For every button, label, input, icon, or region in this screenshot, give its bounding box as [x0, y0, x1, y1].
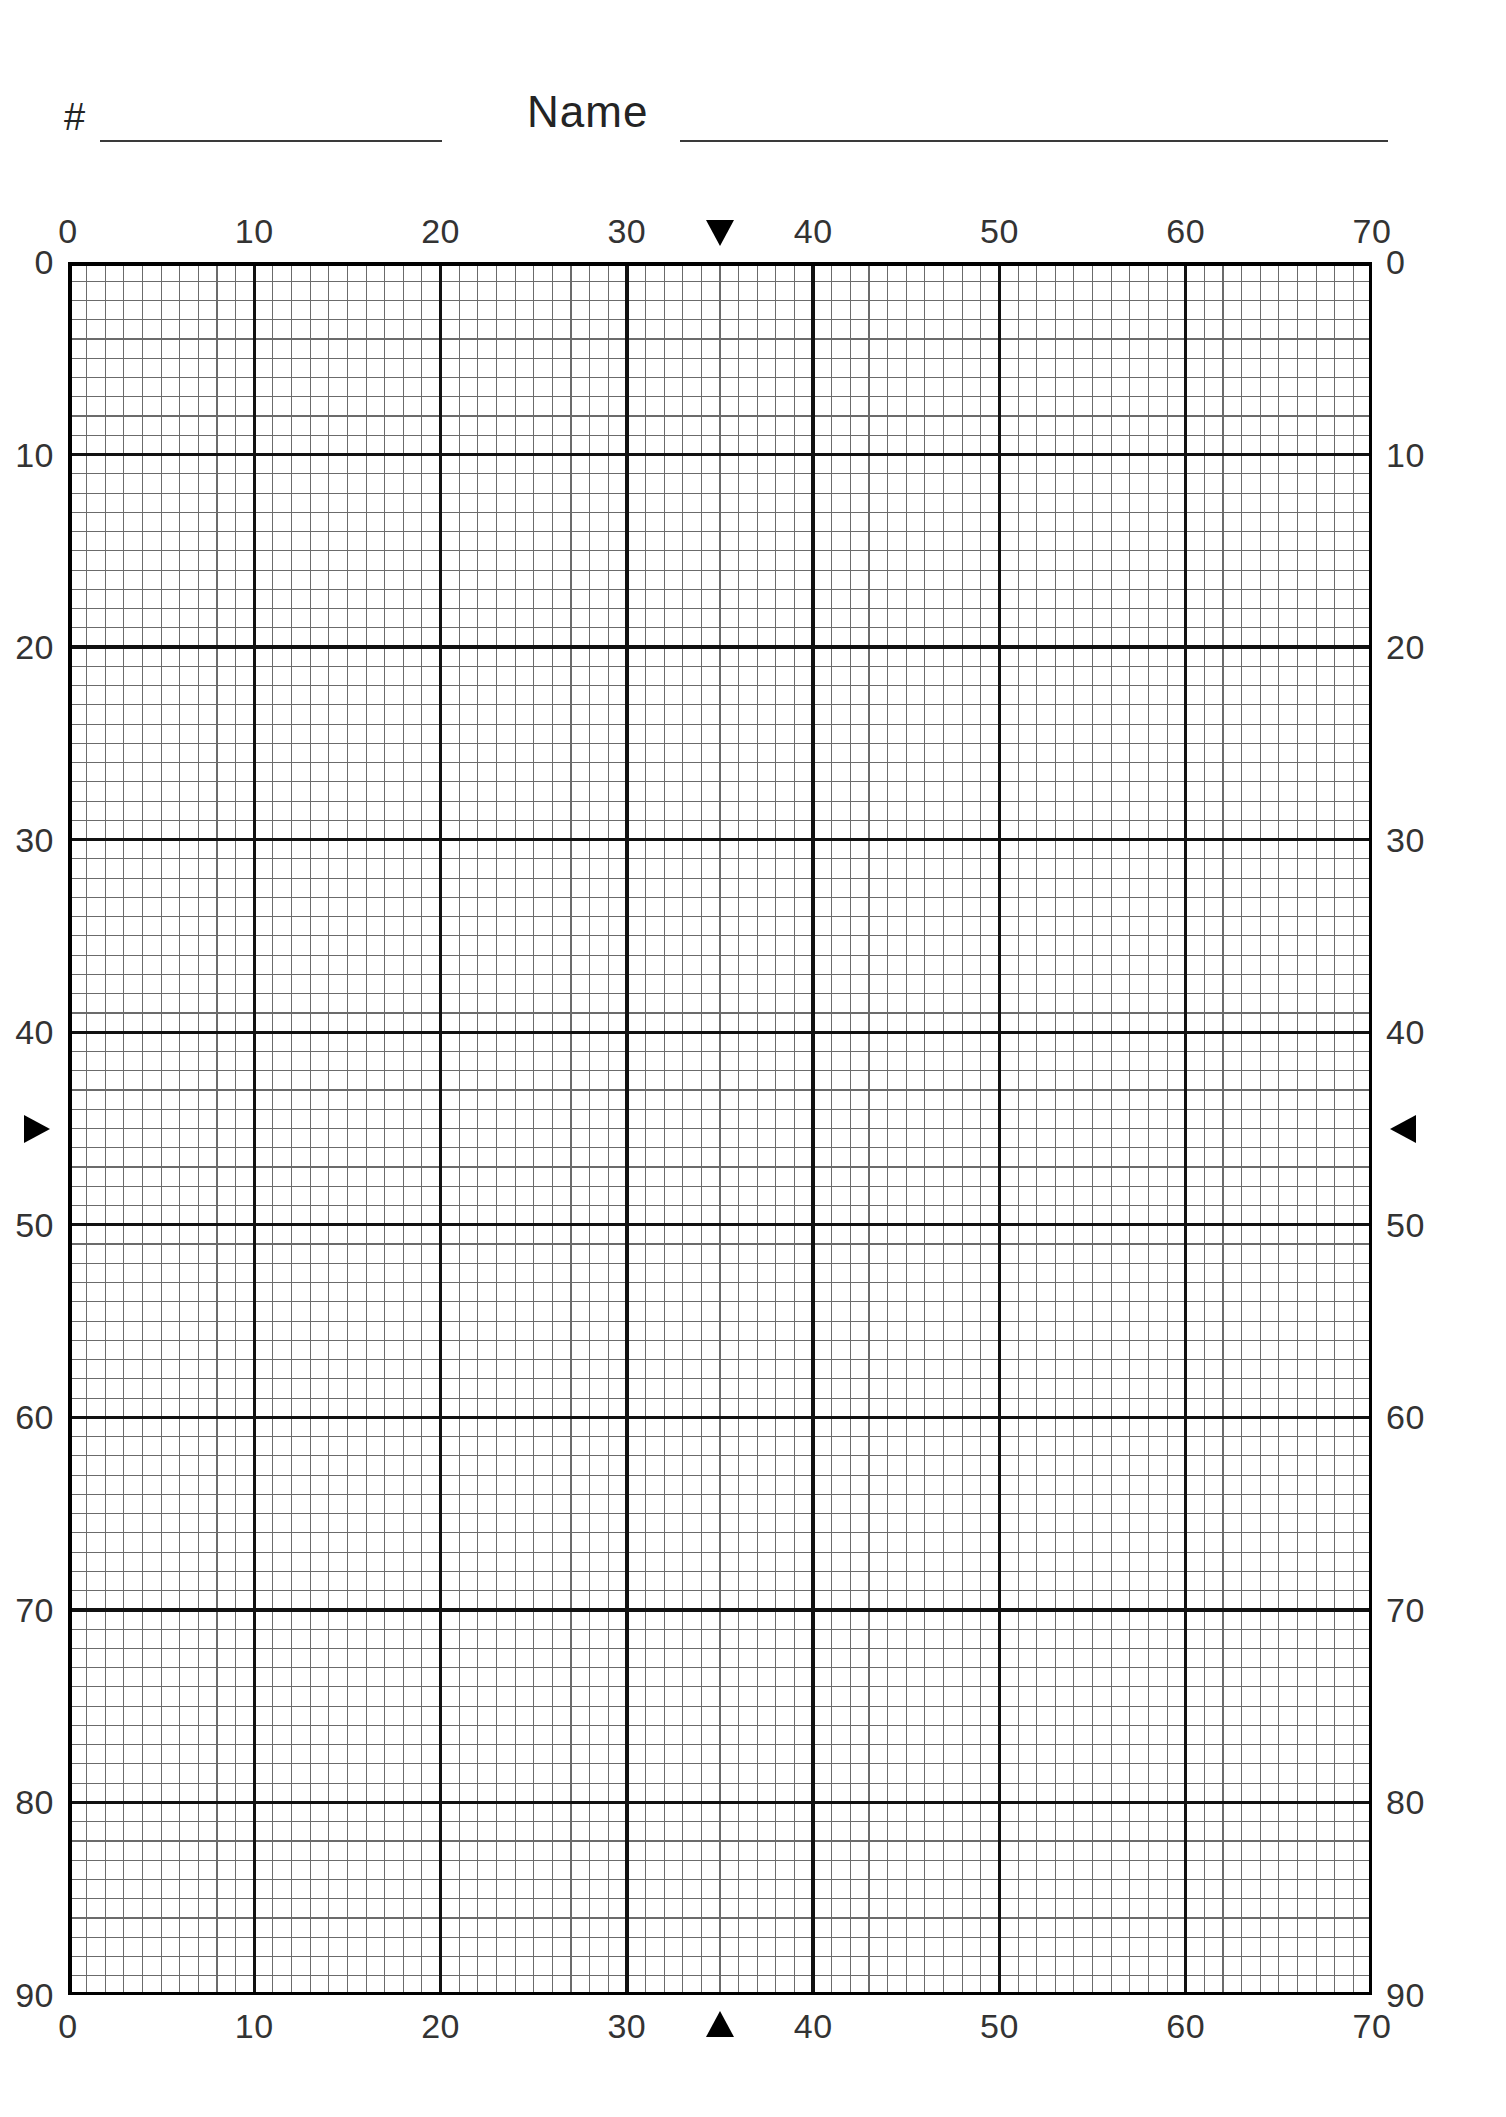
top-tick-10: 10	[235, 214, 274, 248]
bottom-tick-70: 70	[1353, 2009, 1392, 2043]
bottom-center-marker-icon	[706, 2011, 734, 2037]
top-tick-30: 30	[607, 214, 646, 248]
left-tick-30: 30	[15, 823, 54, 857]
left-tick-90: 90	[15, 1978, 54, 2012]
right-tick-60: 60	[1386, 1400, 1425, 1434]
bottom-tick-20: 20	[421, 2009, 460, 2043]
right-tick-50: 50	[1386, 1208, 1425, 1242]
left-tick-10: 10	[15, 438, 54, 472]
top-tick-20: 20	[421, 214, 460, 248]
top-tick-40: 40	[794, 214, 833, 248]
left-tick-20: 20	[15, 630, 54, 664]
right-tick-0: 0	[1386, 245, 1405, 279]
left-tick-70: 70	[15, 1593, 54, 1627]
top-tick-0: 0	[58, 214, 77, 248]
bottom-tick-60: 60	[1166, 2009, 1205, 2043]
right-tick-80: 80	[1386, 1785, 1425, 1819]
bottom-tick-10: 10	[235, 2009, 274, 2043]
right-tick-30: 30	[1386, 823, 1425, 857]
bottom-tick-30: 30	[607, 2009, 646, 2043]
grid-plot-area[interactable]	[68, 262, 1372, 1995]
top-tick-60: 60	[1166, 214, 1205, 248]
left-tick-0: 0	[35, 245, 54, 279]
left-tick-40: 40	[15, 1015, 54, 1049]
left-tick-60: 60	[15, 1400, 54, 1434]
grid-lines	[68, 262, 1372, 1995]
top-tick-50: 50	[980, 214, 1019, 248]
right-tick-70: 70	[1386, 1593, 1425, 1627]
right-tick-90: 90	[1386, 1978, 1425, 2012]
right-tick-10: 10	[1386, 438, 1425, 472]
top-center-marker-icon	[706, 220, 734, 246]
bottom-tick-40: 40	[794, 2009, 833, 2043]
left-center-marker-icon	[24, 1115, 50, 1143]
bottom-tick-50: 50	[980, 2009, 1019, 2043]
graph-paper: 010203040506070 010203040506070 01020304…	[0, 0, 1506, 2117]
right-tick-20: 20	[1386, 630, 1425, 664]
right-center-marker-icon	[1390, 1115, 1416, 1143]
right-tick-40: 40	[1386, 1015, 1425, 1049]
bottom-tick-0: 0	[58, 2009, 77, 2043]
left-tick-80: 80	[15, 1785, 54, 1819]
left-tick-50: 50	[15, 1208, 54, 1242]
